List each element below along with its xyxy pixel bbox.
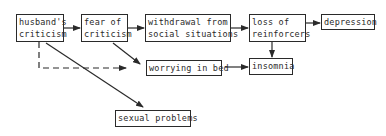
node-worrying-in-bed: worrying in bed [146,60,222,76]
edge-fear-to-worrying [113,43,140,64]
edge-husband-to-worrying-dashed [39,42,126,68]
node-sexual-problems: sexual problems [115,110,191,127]
node-insomnia: insomnia [249,58,293,75]
node-loss-of-reinforcers: loss of reinforcers [249,14,306,42]
edge-husband-to-sexual [46,43,143,107]
node-husbands-criticism: husband's criticism [16,14,64,42]
node-fear-of-criticism: fear of criticism [81,14,128,42]
node-depression: depression [321,14,375,30]
node-withdrawal: withdrawal from social situations [145,14,231,42]
